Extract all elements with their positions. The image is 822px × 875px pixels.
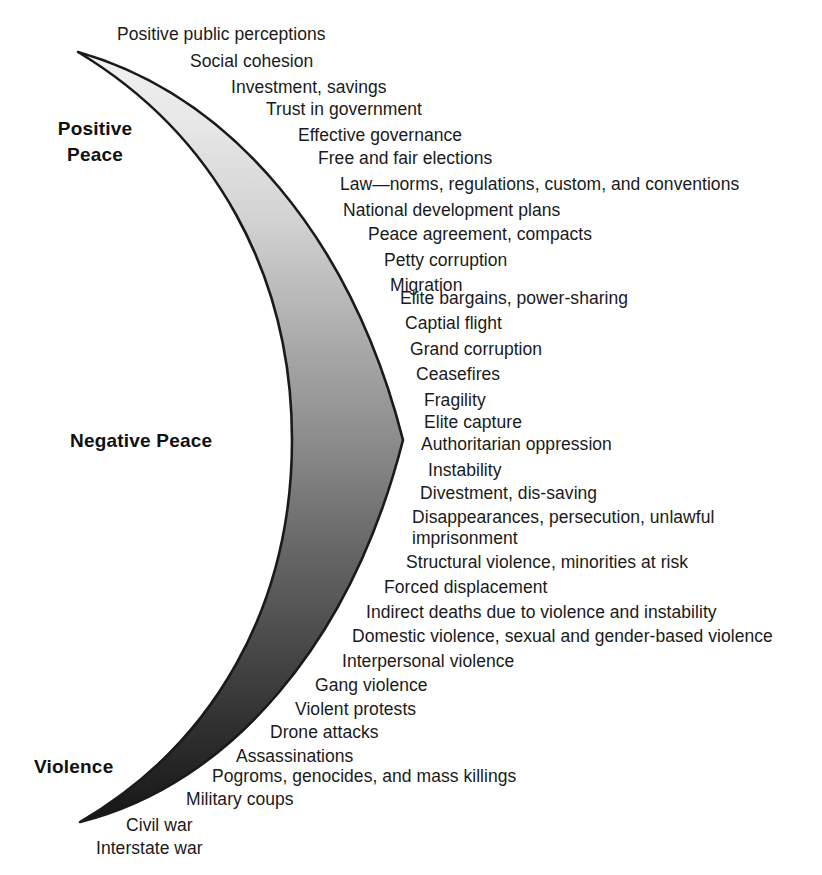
- continuum-item: Disappearances, persecution, unlawful im…: [412, 507, 714, 549]
- continuum-item: Drone attacks: [270, 722, 379, 743]
- peace-violence-continuum-figure: Positive Peace Negative Peace Violence P…: [0, 0, 822, 875]
- continuum-item-list: Positive public perceptionsSocial cohesi…: [0, 0, 822, 875]
- continuum-item: Assassinations: [236, 746, 353, 767]
- continuum-item: Forced displacement: [384, 577, 547, 598]
- continuum-item: Petty corruption: [384, 250, 507, 271]
- continuum-item: Free and fair elections: [318, 148, 492, 169]
- continuum-item: Instability: [428, 460, 502, 481]
- continuum-item: Military coups: [186, 789, 294, 810]
- continuum-item: Elite bargains, power-sharing: [400, 288, 628, 309]
- continuum-item: Social cohesion: [190, 51, 313, 72]
- continuum-item: Pogroms, genocides, and mass killings: [212, 766, 516, 787]
- continuum-item: Gang violence: [315, 675, 428, 696]
- continuum-item: Violent protests: [295, 699, 416, 720]
- continuum-item: Structural violence, minorities at risk: [406, 552, 688, 573]
- continuum-item: Fragility: [424, 390, 486, 411]
- continuum-item: Effective governance: [298, 125, 462, 146]
- continuum-item: Captial flight: [405, 313, 502, 334]
- continuum-item: Interstate war: [96, 838, 203, 859]
- continuum-item: Ceasefires: [416, 364, 500, 385]
- continuum-item: Domestic violence, sexual and gender-bas…: [352, 626, 773, 647]
- continuum-item: Interpersonal violence: [342, 651, 514, 672]
- continuum-item: National development plans: [343, 200, 560, 221]
- continuum-item: Civil war: [126, 815, 193, 836]
- continuum-item: Divestment, dis-saving: [420, 483, 597, 504]
- continuum-item: Peace agreement, compacts: [368, 224, 592, 245]
- continuum-item: Positive public perceptions: [117, 24, 326, 45]
- continuum-item: Investment, savings: [231, 77, 387, 98]
- continuum-item: Trust in government: [266, 99, 422, 120]
- continuum-item: Grand corruption: [410, 339, 542, 360]
- continuum-item: Elite capture: [424, 412, 522, 433]
- continuum-item: Indirect deaths due to violence and inst…: [366, 602, 717, 623]
- continuum-item: Authoritarian oppression: [421, 434, 612, 455]
- continuum-item: Law—norms, regulations, custom, and conv…: [340, 174, 739, 195]
